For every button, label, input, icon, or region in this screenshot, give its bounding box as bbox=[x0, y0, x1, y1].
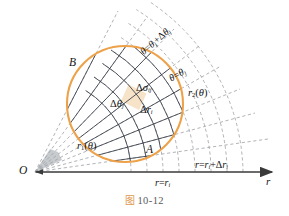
point-B-label: B bbox=[69, 57, 76, 69]
label-r1-theta: r1(θ) bbox=[77, 141, 97, 152]
delta-glyph: Δ bbox=[110, 98, 117, 109]
subscript-j: j bbox=[122, 102, 124, 109]
subscript-i: i bbox=[168, 181, 170, 188]
label-r-equals-ri-plus-delta-ri: r=ri+Δri bbox=[195, 160, 228, 171]
figure-caption: 图10-12 bbox=[0, 192, 289, 207]
label-r-equals-ri: r=ri bbox=[155, 178, 170, 189]
label-r2-theta: r2(θ) bbox=[188, 88, 208, 99]
delta-glyph: Δ bbox=[136, 82, 143, 93]
point-A-label: A bbox=[146, 144, 153, 156]
subscript-i: i bbox=[151, 108, 153, 115]
label-delta-r-i: Δri bbox=[140, 105, 153, 116]
figure-10-12: O r B A θ=θj+Δθj θ=θj r1(θ) r2(θ) r=ri r… bbox=[0, 0, 289, 216]
figure-caption-number: 10-12 bbox=[137, 195, 164, 206]
r-axis-label: r bbox=[266, 176, 270, 187]
label-delta-sigma-ij: Δσij bbox=[136, 83, 152, 94]
figure-caption-symbol: 图 bbox=[125, 195, 135, 206]
origin-label: O bbox=[19, 165, 27, 177]
subscript-i-2: i bbox=[226, 163, 228, 170]
subscript-ij: ij bbox=[148, 86, 152, 93]
label-delta-theta-j: Δθj bbox=[110, 99, 124, 110]
delta-glyph: Δ bbox=[140, 104, 147, 115]
paren-close: ) bbox=[93, 140, 97, 151]
paren-close: ) bbox=[204, 87, 208, 98]
